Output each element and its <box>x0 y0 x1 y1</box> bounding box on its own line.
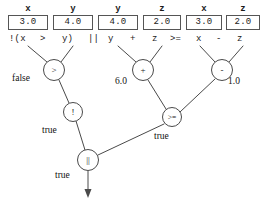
operator-node-logical-or: || <box>77 149 99 171</box>
expression-token: !(x <box>9 34 26 45</box>
edge-value-label: true <box>154 131 169 141</box>
edge-y-to-gt <box>61 46 73 62</box>
variable-name: z <box>143 4 181 15</box>
expression-tree-diagram: x 3.0 y 4.0 y 4.0 z 2.0 x 3.0 z 2.0 !(x … <box>0 0 262 202</box>
variable-name: y <box>53 4 93 15</box>
variable-value-box: 4.0 <box>53 15 93 30</box>
expression-token: z <box>237 34 243 45</box>
operator-node-greater-than: > <box>43 59 65 81</box>
edge-value-label: false <box>12 73 30 83</box>
variable-cell: x 3.0 <box>186 4 222 30</box>
operator-node-greater-equal: >= <box>162 107 182 127</box>
result-arrowhead <box>85 189 92 198</box>
variable-value-box: 3.0 <box>186 15 222 30</box>
variable-name: x <box>8 4 48 15</box>
expression-token: > <box>40 34 46 45</box>
edge-value-label: true <box>55 170 70 180</box>
variable-value-box: 3.0 <box>8 15 48 30</box>
variable-cell: y 4.0 <box>98 4 138 30</box>
operator-node-add: + <box>132 59 154 81</box>
variable-cell: y 4.0 <box>53 4 93 30</box>
expression-token: x <box>196 34 202 45</box>
edge-y-to-add <box>118 46 136 62</box>
variable-name: z <box>226 4 260 15</box>
tree-edges-layer <box>0 0 262 202</box>
variable-cell: z 2.0 <box>143 4 181 30</box>
variable-value-box: 4.0 <box>98 15 138 30</box>
expression-token: - <box>216 34 222 45</box>
edge-sub-to-ge <box>180 79 215 112</box>
edge-x-to-gt <box>28 46 47 62</box>
edge-value-label: 6.0 <box>115 76 127 86</box>
expression-token: y <box>108 34 114 45</box>
expression-token: >= <box>170 34 181 45</box>
edge-z-to-sub <box>229 46 243 62</box>
expression-token: || <box>88 34 99 45</box>
variable-value-box: 2.0 <box>143 15 181 30</box>
variable-name: y <box>98 4 138 15</box>
variable-cell: x 3.0 <box>8 4 48 30</box>
edge-add-to-ge <box>148 80 166 109</box>
edge-x-to-sub <box>200 46 215 62</box>
edge-z-to-add <box>150 46 162 62</box>
edge-gt-to-not <box>59 80 69 103</box>
edge-not-to-or <box>76 121 85 150</box>
edge-value-label: 1.0 <box>228 76 240 86</box>
variable-name: x <box>186 4 222 15</box>
variable-value-box: 2.0 <box>226 15 260 30</box>
expression-token: z <box>152 34 158 45</box>
variable-cell: z 2.0 <box>226 4 260 30</box>
expression-token: y) <box>62 34 73 45</box>
edge-value-label: true <box>42 125 57 135</box>
expression-token: + <box>130 34 136 45</box>
operator-node-logical-not: ! <box>63 102 83 122</box>
